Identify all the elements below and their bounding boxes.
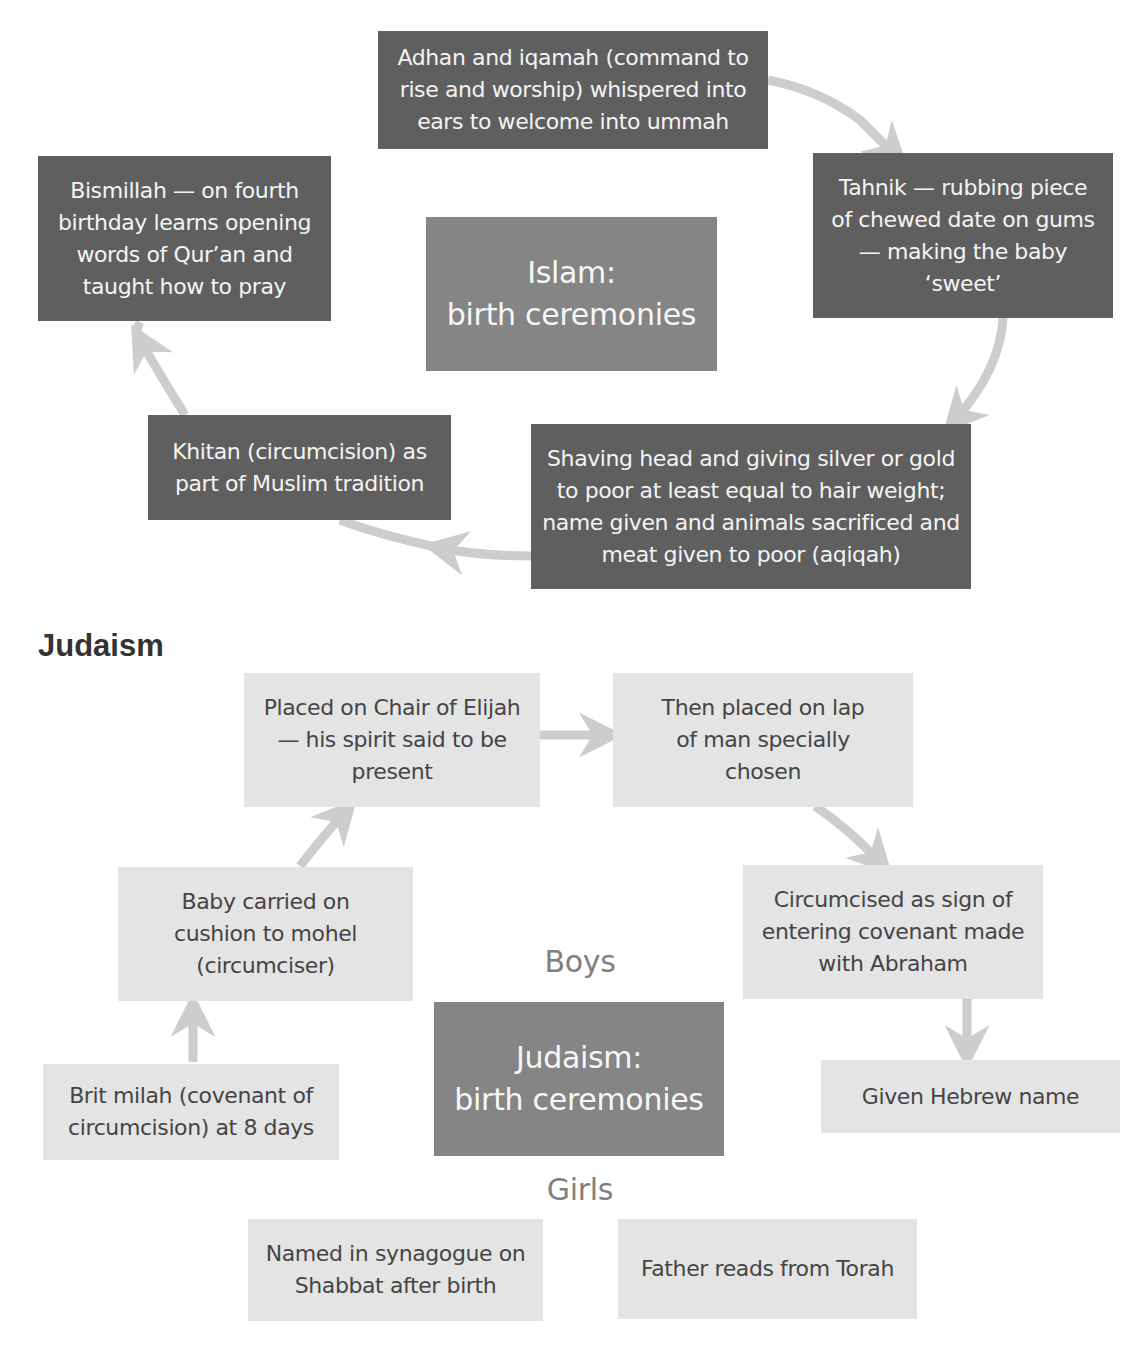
step-text: Named in synagogue on Shabbat after birt… (264, 1238, 527, 1302)
step-text: Brit milah (covenant of circumcision) at… (63, 1080, 319, 1144)
arrow-adhan-to-tahnik (768, 80, 895, 155)
center-title-line2: birth ceremonies (447, 294, 696, 336)
judaism-step-brit-milah: Brit milah (covenant of circumcision) at… (43, 1064, 339, 1160)
judaism-girls-step-synagogue: Named in synagogue on Shabbat after birt… (248, 1219, 543, 1321)
step-text: Baby carried on cushion to mohel (circum… (158, 886, 373, 982)
arrow-shaving-to-khitan (440, 548, 532, 556)
judaism-step-lap: Then placed on lap of man specially chos… (613, 673, 913, 807)
islam-step-adhan: Adhan and iqamah (command to rise and wo… (378, 31, 768, 149)
center-title-line2: birth ceremonies (454, 1079, 703, 1121)
judaism-step-hebrew-name: Given Hebrew name (821, 1060, 1120, 1133)
arrow-lap-to-circumcised (815, 806, 880, 862)
judaism-step-chair-elijah: Placed on Chair of Elijah — his spirit s… (244, 673, 540, 807)
arrow-path-bismillah (138, 322, 141, 340)
step-text: Bismillah — on fourth birthday learns op… (54, 175, 315, 303)
step-text: Adhan and iqamah (command to rise and wo… (392, 42, 754, 138)
islam-center-title: Islam: birth ceremonies (426, 217, 717, 371)
boys-label: Boys (500, 944, 660, 984)
step-text: Khitan (circumcision) as part of Muslim … (168, 436, 431, 500)
birth-ceremonies-diagrams: Adhan and iqamah (command to rise and wo… (0, 0, 1140, 1354)
step-text: Then placed on lap of man specially chos… (653, 692, 873, 788)
islam-step-bismillah: Bismillah — on fourth birthday learns op… (38, 156, 331, 321)
step-text: Circumcised as sign of entering covenant… (755, 884, 1031, 980)
step-text: Given Hebrew name (862, 1081, 1079, 1113)
islam-step-tahnik: Tahnik — rubbing piece of chewed date on… (813, 153, 1113, 318)
step-text: Placed on Chair of Elijah — his spirit s… (260, 692, 524, 788)
step-text: Shaving head and giving silver or gold t… (541, 443, 961, 571)
judaism-step-cushion: Baby carried on cushion to mohel (circum… (118, 867, 413, 1001)
judaism-step-circumcised: Circumcised as sign of entering covenant… (743, 865, 1043, 999)
center-title-line1: Judaism: (516, 1037, 642, 1079)
islam-step-khitan: Khitan (circumcision) as part of Muslim … (148, 415, 451, 520)
judaism-girls-step-torah: Father reads from Torah (618, 1219, 917, 1319)
arrow-cushion-to-chair (300, 812, 345, 866)
judaism-center-title: Judaism: birth ceremonies (434, 1002, 724, 1156)
arrow-tahnik-to-shaving (955, 318, 1003, 420)
section-heading-judaism: Judaism (38, 628, 164, 664)
girls-label: Girls (500, 1172, 660, 1212)
step-text: Tahnik — rubbing piece of chewed date on… (829, 172, 1097, 300)
islam-step-shaving: Shaving head and giving silver or gold t… (531, 424, 971, 589)
center-title-line1: Islam: (527, 252, 616, 294)
arrow-path-khitan (340, 520, 440, 548)
arrow-khitan-to-bismillah (140, 340, 185, 415)
step-text: Father reads from Torah (641, 1253, 894, 1285)
